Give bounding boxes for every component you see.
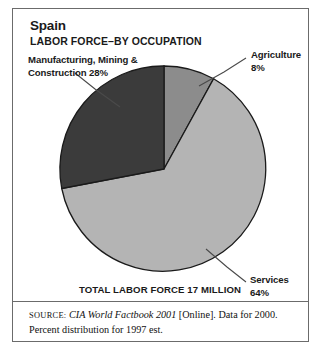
leader-line-services [206, 249, 246, 282]
source-label: SOURCE: [29, 311, 66, 320]
page-title: Spain [30, 18, 66, 33]
pie-slice-manufacturing [60, 66, 164, 189]
source-publication: CIA World Factbook 2001 [69, 309, 176, 320]
source-divider [13, 301, 308, 302]
figure-frame: Spain LABOR FORCE–BY OCCUPATION Manufact… [12, 8, 309, 342]
total-labor-force-caption: TOTAL LABOR FORCE 17 MILLION [13, 284, 307, 295]
slice-label-agriculture: Agriculture 8% [251, 49, 308, 74]
leader-line-agriculture [199, 58, 246, 86]
slice-label-manufacturing: Manufacturing, Mining & Construction 28% [28, 54, 138, 79]
source-note: SOURCE: CIA World Factbook 2001 [Online]… [29, 308, 297, 336]
chart-subtitle: LABOR FORCE–BY OCCUPATION [30, 35, 202, 47]
